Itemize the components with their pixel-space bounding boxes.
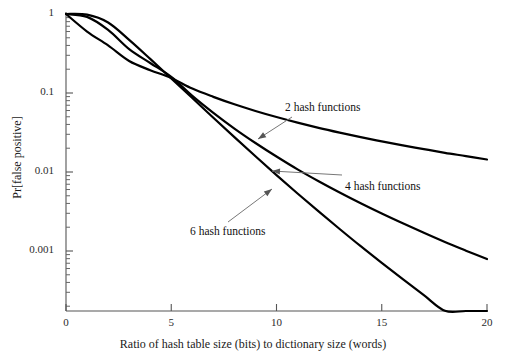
x-axis-tick-label: 5 [151,316,191,328]
x-axis-tick-label: 10 [257,316,297,328]
x-axis-tick-label: 15 [362,316,402,328]
curve-2-hash-functions [66,14,487,159]
x-axis-tick-label: 20 [467,316,506,328]
annotation-arrow-head [264,189,272,196]
y-axis-tick-label: 0.001 [0,243,54,255]
annotation-arrow-head [258,132,266,139]
y-axis-tick-label: 1 [0,6,54,18]
y-axis-tick-label: 0.1 [0,85,54,97]
annotation-label: 2 hash functions [285,101,360,113]
annotation-label: 4 hash functions [345,180,420,192]
annotation-arrow-line [228,189,272,222]
y-axis-tick-label: 0.01 [0,164,54,176]
bloom-filter-false-positive-chart: 10.10.010.001 05101520 2 hash functions4… [0,0,506,361]
plot-area [0,0,506,361]
x-axis-tick-label: 0 [46,316,86,328]
y-axis-ticks [66,14,73,306]
x-axis-title: Ratio of hash table size (bits) to dicti… [0,337,506,352]
data-curves [66,14,487,312]
curve-6-hash-functions [66,14,487,312]
curve-4-hash-functions [66,14,487,259]
annotation-arrows [228,117,342,222]
annotation-label: 6 hash functions [190,225,265,237]
x-axis-ticks [66,304,487,311]
y-axis-title: Pr[false positive] [10,98,25,218]
